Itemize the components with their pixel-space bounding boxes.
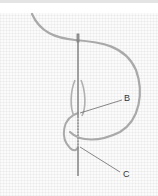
leader-line-c [80, 147, 120, 172]
label-b: B [124, 93, 130, 103]
thread-strand-right [81, 80, 85, 116]
stitch-illustration [0, 3, 158, 196]
label-c: C [123, 169, 130, 179]
thread-upper [32, 14, 140, 140]
diagram-canvas: B C [0, 3, 158, 196]
leader-line-b [80, 100, 122, 113]
thread-strand-left [71, 80, 75, 116]
